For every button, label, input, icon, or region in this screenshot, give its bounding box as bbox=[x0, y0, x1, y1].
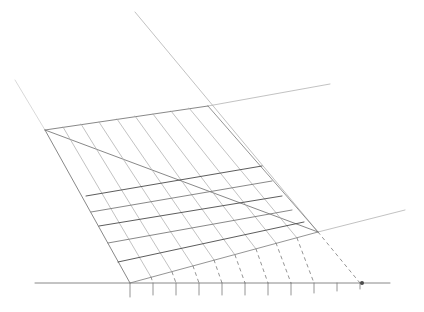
dashed-projection bbox=[193, 266, 199, 283]
right-lower-guide bbox=[318, 210, 405, 232]
baseline-with-ticks bbox=[35, 281, 390, 297]
perspective-grid-drawing bbox=[0, 0, 424, 312]
grid-slanted-line bbox=[99, 122, 193, 266]
vanishing-point-mark bbox=[360, 281, 364, 285]
grid-right-edge bbox=[208, 106, 318, 232]
grid-rung-line bbox=[108, 210, 292, 243]
perspective-grid bbox=[45, 106, 318, 283]
grid-rung-line bbox=[91, 181, 272, 212]
dashed-projection bbox=[214, 260, 222, 283]
dashed-projection bbox=[276, 243, 291, 283]
dashed-projection-lines bbox=[151, 232, 360, 283]
top-long-guide bbox=[135, 12, 318, 232]
grid-slanted-line bbox=[171, 111, 276, 243]
sketch-canvas: Pencil sketch of a perspective grid bbox=[0, 0, 424, 312]
dashed-projection bbox=[172, 272, 176, 283]
dashed-projection bbox=[235, 255, 245, 283]
dashed-projection bbox=[297, 238, 314, 283]
grid-rung-line bbox=[99, 196, 282, 226]
top-edge-extension bbox=[208, 84, 330, 106]
dashed-projection bbox=[151, 277, 153, 283]
grid-slanted-line bbox=[81, 124, 172, 272]
dashed-projection bbox=[256, 249, 268, 283]
construction-lines bbox=[15, 12, 405, 232]
dashed-projection bbox=[318, 232, 360, 283]
left-upper-guide bbox=[15, 80, 45, 130]
grid-left-edge bbox=[45, 130, 130, 283]
